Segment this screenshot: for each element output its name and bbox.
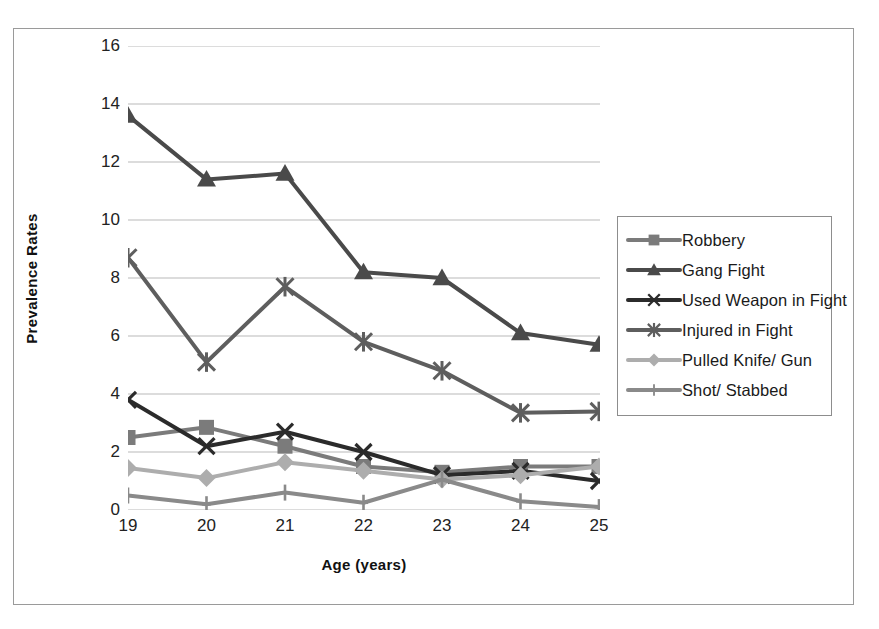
y-tick-label: 0 [80, 500, 120, 520]
legend-key-triangle-icon [626, 261, 682, 279]
data-point-asterisk-marker [277, 277, 294, 297]
plot-area [128, 46, 600, 510]
x-tick-label: 22 [354, 516, 373, 536]
plot-svg [128, 46, 600, 510]
data-point-dash-marker [202, 496, 211, 510]
data-point-triangle-marker [128, 106, 138, 123]
legend-item-pulled-knife-gun[interactable]: Pulled Knife/ Gun [626, 345, 831, 375]
series-gang-fight [128, 106, 600, 352]
x-axis-title: Age (years) [128, 556, 600, 573]
y-axis-title-wrap: Prevalence Rates [18, 46, 44, 510]
data-point-diamond-marker [648, 354, 661, 367]
legend-item-gang-fight[interactable]: Gang Fight [626, 255, 831, 285]
x-tick-label: 21 [276, 516, 295, 536]
data-point-asterisk-marker [355, 332, 372, 352]
y-tick-label: 16 [80, 36, 120, 56]
legend-label: Pulled Knife/ Gun [682, 351, 812, 370]
x-tick-label: 23 [433, 516, 452, 536]
y-tick-label: 10 [80, 210, 120, 230]
data-point-asterisk-marker [198, 352, 215, 372]
y-tick-label: 12 [80, 152, 120, 172]
data-point-dash-marker [516, 493, 525, 509]
legend-item-injured-in-fight[interactable]: Injured in Fight [626, 315, 831, 345]
legend-label: Robbery [682, 231, 745, 250]
y-tick-label: 8 [80, 268, 120, 288]
legend-item-used-weapon-in-fight[interactable]: Used Weapon in Fight [626, 285, 831, 315]
x-axis-ticks: 19202122232425 [128, 516, 600, 542]
legend-key-dash-icon [626, 381, 682, 399]
legend-key-diamond-icon [626, 351, 682, 369]
legend-key-square-icon [626, 231, 682, 249]
legend-key-asterisk-icon [626, 321, 682, 339]
series-line [128, 116, 599, 345]
y-tick-label: 6 [80, 326, 120, 346]
data-point-diamond-marker [276, 453, 294, 471]
data-point-dash-marker [595, 499, 600, 510]
y-tick-label: 14 [80, 94, 120, 114]
y-axis-ticks: 1614121086420 [78, 46, 120, 510]
x-tick-label: 25 [590, 516, 609, 536]
x-tick-label: 19 [119, 516, 138, 536]
data-point-dash-marker [651, 384, 657, 396]
x-tick-label: 20 [197, 516, 216, 536]
legend-item-shot-stabbed[interactable]: Shot/ Stabbed [626, 375, 831, 405]
legend-label: Shot/ Stabbed [682, 381, 788, 400]
data-point-asterisk-marker [434, 361, 451, 381]
legend-item-robbery[interactable]: Robbery [626, 225, 831, 255]
data-point-square-marker [199, 420, 214, 435]
data-point-square-marker [278, 439, 293, 454]
y-tick-label: 2 [80, 442, 120, 462]
y-tick-label: 4 [80, 384, 120, 404]
data-point-square-marker [128, 430, 136, 445]
y-axis-title: Prevalence Rates [23, 213, 40, 344]
data-point-dash-marker [281, 485, 290, 501]
data-point-dash-marker [128, 488, 132, 504]
data-point-square-marker [649, 235, 660, 246]
legend-label: Used Weapon in Fight [682, 291, 847, 310]
legend-label: Injured in Fight [682, 321, 793, 340]
data-point-dash-marker [359, 495, 368, 510]
legend-label: Gang Fight [682, 261, 765, 280]
chart-legend: RobberyGang FightUsed Weapon in FightInj… [617, 216, 832, 416]
data-point-diamond-marker [128, 459, 137, 477]
data-point-diamond-marker [198, 469, 216, 487]
x-tick-label: 24 [511, 516, 530, 536]
chart-figure: Prevalence Rates 1614121086420 192021222… [0, 0, 879, 629]
legend-key-x-icon [626, 291, 682, 309]
